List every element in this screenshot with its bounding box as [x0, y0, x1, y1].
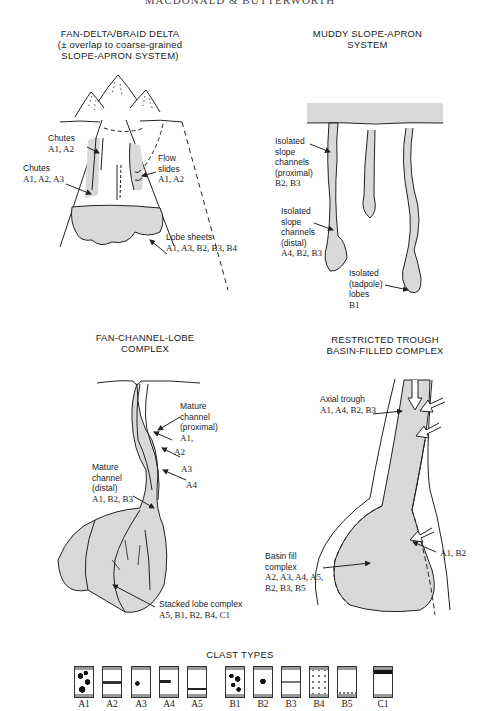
label-name: Mature channel (proximal)	[180, 401, 228, 433]
clast-b3-icon	[281, 666, 301, 698]
clast-b4: B4	[308, 666, 330, 709]
clast-b3: B3	[280, 666, 302, 709]
label-mature-channel-proximal: Mature channel (proximal) A1,	[180, 401, 228, 443]
label-name: Mature channel (distal)	[92, 462, 142, 494]
label-codes: A5, B1, B2, B4, C1	[159, 610, 242, 621]
clast-b1: B1	[224, 666, 246, 709]
label-a2: A2	[174, 447, 185, 458]
label-codes: A1, A2	[48, 144, 75, 155]
label-chutes-upper: Chutes A1, A2	[48, 133, 75, 154]
label-codes: A2	[174, 447, 185, 457]
label-codes: B2, B3	[275, 178, 325, 189]
clast-code: B2	[252, 699, 274, 709]
clast-c1: C1	[372, 666, 394, 709]
label-chutes-lower: Chutes A1, A2, A3	[23, 163, 64, 184]
clast-b1-icon	[225, 666, 245, 698]
label-codes: A3	[181, 464, 192, 474]
clast-b2-icon	[253, 666, 273, 698]
clast-b5-icon	[337, 666, 357, 698]
clast-a5-icon	[187, 666, 207, 698]
label-name: Flow slides	[158, 153, 200, 174]
clast-code: B1	[224, 699, 246, 709]
clast-a2-icon	[102, 666, 122, 698]
label-flow-slides: Flow slides A1, A2	[158, 153, 200, 185]
label-a3: A3	[181, 464, 192, 475]
clast-code: A5	[186, 699, 208, 709]
clast-b2: B2	[252, 666, 274, 709]
clast-code: B4	[308, 699, 330, 709]
clast-a1-icon	[74, 666, 94, 698]
label-codes: A4, B2, B3	[281, 248, 326, 259]
clast-code: A1	[73, 699, 95, 709]
clast-code: A4	[158, 699, 180, 709]
label-name: Stacked lobe complex	[159, 599, 242, 610]
clast-code: B3	[280, 699, 302, 709]
clast-b5: B5	[336, 666, 358, 709]
clast-code: A2	[101, 699, 123, 709]
label-codes: B1	[349, 300, 391, 311]
label-tadpole-lobes: Isolated (tadpole) lobes B1	[349, 268, 391, 310]
clast-b4-icon	[309, 666, 329, 698]
label-lobe-sheets: Lobe sheets A1, A3, B2, B3, B4	[166, 232, 237, 253]
clast-code: A3	[130, 699, 152, 709]
label-codes: A1, B2, B3	[92, 494, 142, 505]
label-name: Isolated (tadpole) lobes	[349, 268, 391, 300]
clast-a3: A3	[130, 666, 152, 709]
label-name: Lobe sheets	[166, 232, 237, 243]
label-slope-channels-proximal: Isolated slope channels (proximal) B2, B…	[275, 136, 325, 189]
label-codes: A1,	[180, 433, 228, 444]
clast-code: B5	[336, 699, 358, 709]
clast-a1: A1	[73, 666, 95, 709]
label-name: Basin fill complex	[265, 551, 330, 572]
label-slope-channels-distal: Isolated slope channels (distal) A4, B2,…	[281, 206, 326, 259]
label-codes: A1, A2	[158, 174, 200, 185]
label-name: Isolated slope channels (distal)	[281, 206, 326, 248]
clast-a3-icon	[131, 666, 151, 698]
clast-a4-icon	[159, 666, 179, 698]
label-codes: A2, A3, A4, A5, B2, B3, B5	[265, 572, 330, 593]
label-codes: A1, A2, A3	[23, 174, 64, 185]
label-name: Chutes	[48, 133, 75, 144]
clast-a2: A2	[101, 666, 123, 709]
label-codes: A1, A4, B2, B3	[320, 405, 380, 416]
label-codes: A4	[186, 480, 197, 490]
clast-a5: A5	[186, 666, 208, 709]
label-codes: A1, A3, B2, B3, B4	[166, 243, 237, 254]
label-a4: A4	[186, 480, 197, 491]
label-a1-b2: A1, B2	[440, 548, 466, 559]
label-name: Axial trough	[320, 394, 380, 405]
label-axial-trough: Axial trough A1, A4, B2, B3	[320, 394, 380, 415]
clast-a4: A4	[158, 666, 180, 709]
label-basin-fill-complex: Basin fill complex A2, A3, A4, A5, B2, B…	[265, 551, 330, 593]
clast-code: C1	[372, 699, 394, 709]
label-stacked-lobe-complex: Stacked lobe complex A5, B1, B2, B4, C1	[159, 599, 242, 620]
label-codes: A1, B2	[440, 548, 466, 558]
label-name: Isolated slope channels (proximal)	[275, 136, 325, 178]
clast-c1-icon	[373, 666, 393, 698]
label-mature-channel-distal: Mature channel (distal) A1, B2, B3	[92, 462, 142, 504]
label-name: Chutes	[23, 163, 64, 174]
clast-types-title: CLAST TYPES	[0, 649, 480, 660]
